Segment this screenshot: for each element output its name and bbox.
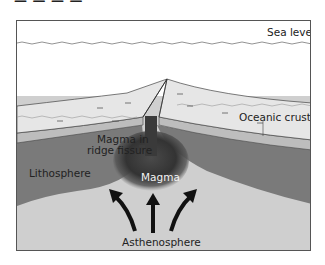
diagram-frame: Sea level Oceanic crust Magma in ridge f… [16, 20, 311, 251]
label-oceanic-crust: Oceanic crust [239, 112, 311, 123]
label-ridge-fissure: ridge fissure [87, 145, 152, 156]
label-asthenosphere: Asthenosphere [122, 237, 201, 248]
mid-ocean-ridge-illustration [17, 21, 311, 251]
cropped-title: — — — — [14, 0, 83, 8]
label-sea-level: Sea level [267, 27, 311, 38]
label-magma: Magma [141, 172, 180, 183]
label-lithosphere: Lithosphere [29, 168, 91, 179]
